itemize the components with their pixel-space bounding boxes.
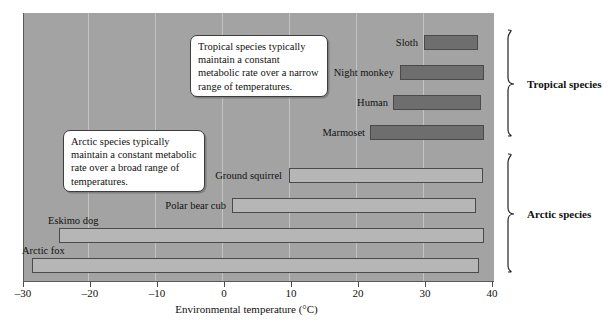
bar-label-arctic-fox: Arctic fox [22, 243, 92, 258]
tick-label-30: 30 [405, 287, 445, 299]
x-axis-title: Environmental temperature (°C) [0, 303, 493, 315]
bar-label-sloth: Sloth [330, 35, 418, 50]
chart-figure: Sloth Night monkey Human Marmoset Ground… [0, 0, 612, 322]
tropical-brace-icon [505, 28, 523, 140]
bar-arctic-fox[interactable] [32, 258, 479, 273]
bar-sloth[interactable] [424, 35, 478, 50]
bar-polar-bear-cub[interactable] [232, 198, 476, 213]
bar-night-monkey[interactable] [400, 65, 484, 80]
group-label-tropical: Tropical species [527, 78, 601, 90]
tick-label-10: 10 [271, 287, 311, 299]
tick-label-minus10: –10 [137, 287, 177, 299]
tick-label-0: 0 [204, 287, 244, 299]
tick-label-40: 40 [472, 287, 512, 299]
bar-eskimo-dog[interactable] [59, 228, 484, 243]
group-label-arctic: Arctic species [527, 208, 591, 220]
tick-label-minus20: –20 [70, 287, 110, 299]
bar-marmoset[interactable] [370, 125, 484, 140]
tick-label-20: 20 [338, 287, 378, 299]
bar-human[interactable] [393, 95, 481, 110]
bar-label-polar-bear-cub: Polar bear cub [140, 198, 226, 213]
tick-label-minus30: –30 [3, 287, 43, 299]
arctic-callout: Arctic species typically maintain a cons… [63, 130, 205, 192]
arctic-brace-icon [505, 152, 523, 276]
bar-label-marmoset: Marmoset [263, 125, 365, 140]
bar-label-human: Human [296, 95, 388, 110]
bar-ground-squirrel[interactable] [289, 168, 483, 183]
bar-label-eskimo-dog: Eskimo dog [48, 213, 118, 228]
tropical-callout: Tropical species typically maintain a co… [190, 35, 328, 97]
